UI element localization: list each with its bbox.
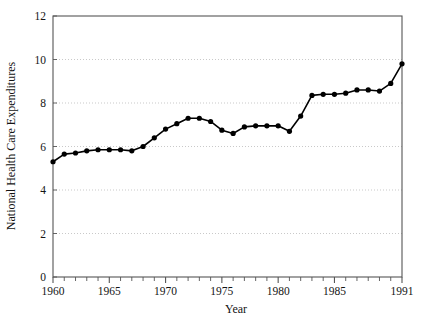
data-point-1979 — [264, 123, 269, 128]
gridlines-group — [53, 60, 402, 234]
data-point-1963 — [84, 148, 89, 153]
x-tick-label-1985: 1985 — [323, 285, 346, 297]
data-point-markers — [50, 61, 404, 164]
data-point-1965 — [107, 147, 112, 152]
data-point-1988 — [366, 87, 371, 92]
data-point-1975 — [219, 128, 224, 133]
y-tick-label-0: 0 — [40, 271, 46, 283]
data-point-1990 — [388, 81, 393, 86]
data-point-1962 — [73, 150, 78, 155]
data-point-1984 — [321, 92, 326, 97]
data-point-1991 — [399, 61, 404, 66]
x-tick-label-1975: 1975 — [210, 285, 233, 297]
data-point-1987 — [354, 87, 359, 92]
data-point-1966 — [118, 147, 123, 152]
data-point-1976 — [231, 131, 236, 136]
data-point-1970 — [163, 127, 168, 132]
y-tick-label-4: 4 — [40, 184, 46, 196]
x-tick-label-1980: 1980 — [267, 285, 290, 297]
x-axis-tick-labels: 1960196519701975198019851991 — [42, 285, 414, 297]
data-point-1983 — [309, 93, 314, 98]
x-tick-label-1965: 1965 — [98, 285, 121, 297]
x-tick-label-1960: 1960 — [42, 285, 65, 297]
y-tick-label-2: 2 — [40, 228, 46, 240]
data-point-1980 — [276, 123, 281, 128]
data-point-1989 — [377, 88, 382, 93]
y-tick-label-10: 10 — [35, 54, 47, 66]
data-point-1974 — [208, 119, 213, 124]
data-point-1982 — [298, 113, 303, 118]
x-tick-label-1991: 1991 — [391, 285, 414, 297]
data-point-1960 — [50, 159, 55, 164]
data-point-1985 — [332, 92, 337, 97]
x-tick-label-1970: 1970 — [154, 285, 177, 297]
y-tick-label-12: 12 — [35, 10, 47, 22]
data-point-1973 — [197, 116, 202, 121]
y-axis-tick-labels: 024681012 — [35, 10, 58, 283]
chart-figure: 1960196519701975198019851991 024681012 Y… — [0, 0, 425, 322]
y-axis-title: National Health Care Expenditures — [4, 62, 18, 231]
data-point-1961 — [62, 152, 67, 157]
data-point-1981 — [287, 129, 292, 134]
y-tick-label-8: 8 — [40, 97, 46, 109]
data-point-1986 — [343, 91, 348, 96]
x-axis-title: Year — [225, 302, 247, 316]
data-series-line — [53, 64, 402, 162]
data-point-1968 — [140, 144, 145, 149]
data-point-1967 — [129, 148, 134, 153]
y-tick-label-6: 6 — [40, 141, 46, 153]
series-line-expenditures — [53, 64, 402, 162]
data-point-1978 — [253, 123, 258, 128]
x-axis-ticks — [53, 277, 402, 283]
line-chart: 1960196519701975198019851991 024681012 Y… — [0, 0, 425, 322]
data-point-1969 — [152, 135, 157, 140]
data-point-1964 — [95, 147, 100, 152]
data-point-1972 — [186, 116, 191, 121]
data-point-1977 — [242, 124, 247, 129]
data-point-1971 — [174, 121, 179, 126]
